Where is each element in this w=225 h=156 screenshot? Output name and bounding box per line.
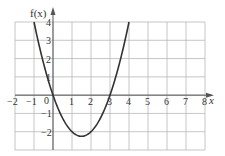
y-axis-arrow-icon — [51, 7, 56, 15]
x-tick-label: 2 — [88, 96, 93, 107]
y-axis-label: f(x) — [30, 7, 47, 20]
x-tick-label: 7 — [183, 96, 188, 107]
x-tick-label: 8 — [202, 96, 207, 107]
y-tick-label: −2 — [41, 127, 52, 138]
x-tick-label: −1 — [26, 96, 37, 107]
y-tick-label: −1 — [41, 108, 52, 119]
origin-label: 0 — [44, 95, 49, 106]
y-tick-label: 1 — [46, 72, 51, 83]
y-tick-label: 4 — [46, 17, 51, 28]
x-axis-label: x — [208, 94, 214, 106]
x-tick-label: 3 — [107, 96, 112, 107]
y-tick-label: 3 — [46, 35, 51, 46]
x-tick-label: −2 — [7, 96, 18, 107]
y-tick-label: 2 — [46, 54, 51, 65]
x-tick-label: 6 — [164, 96, 169, 107]
x-tick-label: 4 — [126, 96, 131, 107]
x-tick-label: 5 — [145, 96, 150, 107]
function-graph: −2−1123456784321−1−2 f(x) x 0 — [0, 0, 225, 156]
x-tick-label: 1 — [69, 96, 74, 107]
